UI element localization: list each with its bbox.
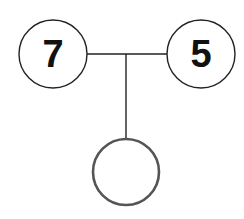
- number-bond-diagram: 7 5: [0, 0, 244, 219]
- node-bottom: [93, 139, 159, 205]
- node-right: 5: [167, 20, 235, 88]
- node-right-label: 5: [190, 33, 211, 75]
- node-left-label: 7: [42, 33, 63, 75]
- node-bottom-circle: [93, 139, 159, 205]
- node-left: 7: [19, 20, 87, 88]
